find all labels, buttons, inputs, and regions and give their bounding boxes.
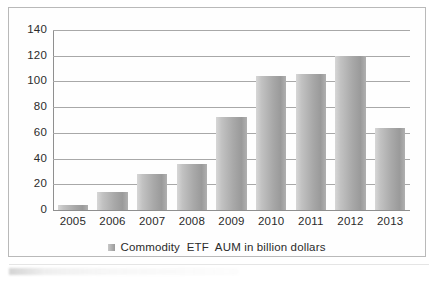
x-tick-label-2012: 2012 [331, 216, 371, 228]
y-tick-label-0: 0 [13, 204, 47, 216]
y-tick-label-120: 120 [13, 50, 47, 62]
bar-2012 [335, 56, 365, 210]
bar-column-2012 [331, 30, 371, 210]
y-tick-label-100: 100 [13, 75, 47, 87]
x-axis-tick-labels: 200520062007200820092010201120122013 [53, 216, 410, 232]
x-tick-label-2013: 2013 [370, 216, 410, 228]
bar-column-2008 [172, 30, 212, 210]
bar-column-2007 [132, 30, 172, 210]
bar-2006 [97, 192, 127, 210]
bar-2011 [296, 74, 326, 210]
bar-2007 [137, 174, 167, 210]
chart-legend: Commodity ETF AUM in billion dollars [9, 241, 425, 253]
x-tick-label-2005: 2005 [53, 216, 93, 228]
y-tick-label-140: 140 [13, 24, 47, 36]
scan-artifact-caption-smudge [9, 268, 239, 275]
x-tick-label-2010: 2010 [251, 216, 291, 228]
bar-column-2010 [251, 30, 291, 210]
legend-color-swatch [108, 244, 115, 251]
bar-2008 [177, 164, 207, 210]
bar-column-2005 [53, 30, 93, 210]
bar-2009 [216, 117, 246, 210]
scan-artifact-line [9, 264, 429, 265]
legend-label: Commodity ETF AUM in billion dollars [120, 241, 325, 253]
x-tick-label-2006: 2006 [93, 216, 133, 228]
figure-frame: 020406080100120140 200520062007200820092… [8, 7, 426, 257]
y-axis-tick-labels: 020406080100120140 [9, 30, 47, 210]
x-tick-label-2007: 2007 [132, 216, 172, 228]
y-tick-label-40: 40 [13, 153, 47, 165]
bar-2013 [375, 128, 405, 210]
y-tick-label-60: 60 [13, 127, 47, 139]
bar-2005 [58, 205, 88, 210]
gridline-0 [53, 210, 410, 211]
x-tick-label-2008: 2008 [172, 216, 212, 228]
y-tick-label-20: 20 [13, 178, 47, 190]
x-tick-label-2011: 2011 [291, 216, 331, 228]
bar-column-2011 [291, 30, 331, 210]
bar-column-2006 [93, 30, 133, 210]
x-tick-label-2009: 2009 [212, 216, 252, 228]
plot-area [53, 30, 410, 210]
bar-2010 [256, 76, 286, 210]
bar-column-2009 [212, 30, 252, 210]
y-tick-label-80: 80 [13, 101, 47, 113]
bar-column-2013 [370, 30, 410, 210]
